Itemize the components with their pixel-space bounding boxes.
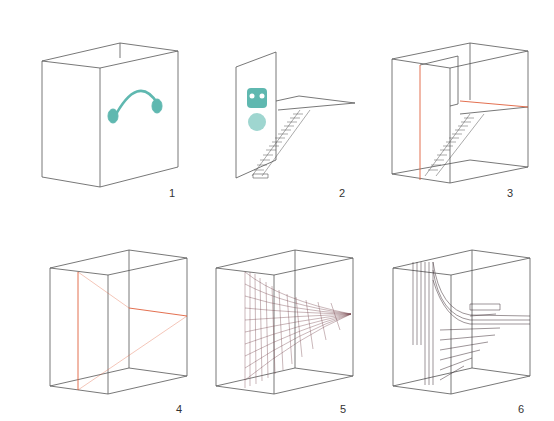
panel-label-5: 5 xyxy=(340,403,346,415)
staircase-2 xyxy=(253,174,268,178)
panel-label-6: 6 xyxy=(518,403,524,415)
panel-6-box xyxy=(393,250,530,394)
headphones-icon xyxy=(108,91,162,123)
panel-label-3: 3 xyxy=(507,187,513,199)
diagram-sequence: 1 2 3 4 5 6 xyxy=(0,0,554,421)
mesh-surface xyxy=(245,272,351,388)
panel-4-box xyxy=(50,250,187,394)
gas-mask-icon xyxy=(247,88,267,131)
panel-3-box xyxy=(392,43,528,183)
morph-stair xyxy=(413,262,530,385)
panel-label-2: 2 xyxy=(339,187,345,199)
panel-5-box xyxy=(216,250,353,394)
panel-label-4: 4 xyxy=(176,403,182,415)
panel-label-1: 1 xyxy=(169,187,175,199)
diagram-canvas xyxy=(0,0,554,421)
